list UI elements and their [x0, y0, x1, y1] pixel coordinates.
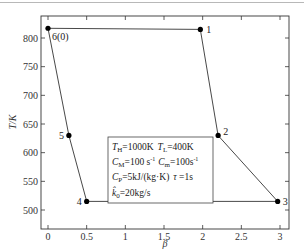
- axis-ticks: 00.511.522.53500550600650700750800: [23, 16, 289, 242]
- data-point: [198, 27, 203, 32]
- y-tick-label: 500: [23, 205, 38, 216]
- x-tick-label: 1: [123, 231, 128, 242]
- data-point: [216, 133, 221, 138]
- point-label: 2: [223, 126, 228, 137]
- y-tick-label: 800: [23, 33, 38, 44]
- x-tick-label: 0: [46, 231, 51, 242]
- x-tick-label: 2: [200, 231, 205, 242]
- point-label: 3: [283, 196, 288, 207]
- point-label: 4: [77, 196, 82, 207]
- point-label: 6(0): [52, 31, 69, 43]
- data-point: [275, 199, 280, 204]
- x-tick-label: 2.5: [235, 231, 248, 242]
- data-point: [66, 133, 71, 138]
- y-tick-label: 750: [23, 61, 38, 72]
- y-tick-label: 600: [23, 147, 38, 158]
- y-tick-label: 700: [23, 90, 38, 101]
- legend-box: TH=1000KTL=400K CM=100 s-1Cm=100s-1 CP=5…: [108, 137, 213, 203]
- y-tick-label: 650: [23, 119, 38, 130]
- data-point: [84, 199, 89, 204]
- y-axis-label: T/K: [7, 113, 18, 129]
- data-point: [45, 26, 50, 31]
- x-tick-label: 0.5: [80, 231, 93, 242]
- cycle-chart: 00.511.522.53500550600650700750800 6(0)1…: [0, 0, 304, 252]
- x-tick-label: 3: [278, 231, 283, 242]
- y-tick-label: 550: [23, 176, 38, 187]
- point-label: 1: [206, 24, 211, 35]
- x-axis-label: β: [162, 238, 168, 249]
- point-label: 5: [59, 130, 64, 141]
